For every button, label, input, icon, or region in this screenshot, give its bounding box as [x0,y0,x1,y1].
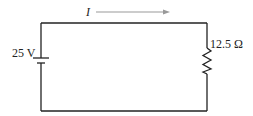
resistor-symbol [203,48,211,74]
voltage-label: 25 V [12,47,35,59]
current-label: I [86,6,90,18]
resistance-label: 12.5 Ω [210,38,243,50]
current-arrow [96,10,170,15]
circuit-diagram [0,0,253,116]
